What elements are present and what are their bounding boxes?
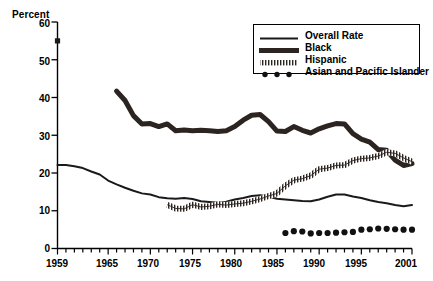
legend-item-hispanic: Hispanic <box>259 53 347 65</box>
legend-swatch-dots <box>259 66 299 77</box>
legend-swatch-thin-line <box>259 30 299 41</box>
x-tick-marks <box>58 249 413 255</box>
dropout-rate-chart: Percent 0 10 20 30 40 50 60 1959 1965 19… <box>0 0 433 281</box>
annotation-marker-layer <box>55 38 60 43</box>
legend-label-overall-rate: Overall Rate <box>305 30 363 41</box>
legend: Overall Rate Black Hispanic Asian and Pa… <box>253 24 420 74</box>
legend-swatch-hatched-line <box>259 54 299 65</box>
legend-item-overall-rate: Overall Rate <box>259 29 363 41</box>
legend-label-black: Black <box>305 42 332 53</box>
y-tick-marks <box>52 22 58 249</box>
legend-label-asian-pacific-islander: Asian and Pacific Islander <box>305 66 429 77</box>
legend-item-black: Black <box>259 41 332 53</box>
legend-label-hispanic: Hispanic <box>305 54 347 65</box>
legend-item-asian-pacific-islander: Asian and Pacific Islander <box>259 65 429 77</box>
series-layer <box>58 91 416 236</box>
legend-swatch-thick-line <box>259 42 299 53</box>
